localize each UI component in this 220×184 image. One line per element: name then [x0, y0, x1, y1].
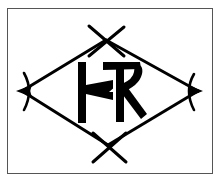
- left-arrowhead-icon: [16, 73, 32, 110]
- monogram-letters: [78, 62, 147, 123]
- right-arrowhead-icon: [188, 74, 203, 110]
- bottom-cross-icon: [93, 133, 126, 162]
- top-cross-icon: [89, 26, 124, 56]
- monogram-mark: [0, 0, 220, 184]
